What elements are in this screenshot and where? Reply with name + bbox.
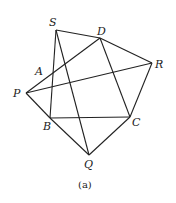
segment-BC — [50, 117, 130, 118]
segment-SQ — [56, 30, 89, 155]
segments — [26, 30, 152, 155]
label-D: D — [96, 25, 106, 38]
label-A: A — [34, 65, 43, 78]
label-S: S — [49, 16, 57, 29]
segment-SD — [56, 30, 100, 38]
segment-RC — [130, 63, 152, 117]
segment-PR — [26, 63, 152, 93]
geometry-figure: S D R A P B C Q (a) — [0, 0, 176, 203]
figure-caption: (a) — [78, 179, 92, 190]
segment-BQ — [50, 118, 89, 155]
label-C: C — [132, 116, 141, 129]
label-P: P — [12, 87, 21, 100]
segment-CQ — [89, 117, 130, 155]
label-Q: Q — [84, 158, 93, 171]
segment-PB — [26, 93, 50, 118]
label-B: B — [42, 120, 51, 133]
label-R: R — [154, 58, 163, 71]
